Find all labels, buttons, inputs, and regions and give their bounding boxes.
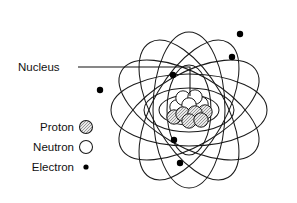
electron-bottom bbox=[177, 160, 183, 166]
electron-top-right-outer bbox=[237, 31, 243, 37]
legend-label-electron: Electron bbox=[32, 161, 74, 173]
electron-left-outer bbox=[97, 87, 103, 93]
atom-structure-diagram: Nucleus Proton Neutron Electron bbox=[0, 0, 297, 203]
legend-swatch-electron-icon bbox=[83, 164, 88, 169]
legend-label-neutron: Neutron bbox=[33, 141, 74, 153]
legend-label-proton: Proton bbox=[40, 121, 74, 133]
nucleus-leader-line bbox=[78, 67, 190, 96]
nucleus-proton bbox=[194, 113, 208, 127]
electron-upper-inner bbox=[170, 72, 176, 78]
legend: Proton Neutron Electron bbox=[32, 121, 93, 174]
nucleus-label: Nucleus bbox=[18, 61, 60, 73]
electron-lower-inner bbox=[171, 137, 177, 143]
electron-right-upper bbox=[229, 54, 235, 60]
nucleus-callout: Nucleus bbox=[18, 61, 190, 96]
diagram-canvas: Nucleus Proton Neutron Electron bbox=[0, 0, 297, 203]
legend-swatch-proton-icon bbox=[80, 121, 93, 134]
legend-swatch-neutron-icon bbox=[80, 141, 93, 154]
